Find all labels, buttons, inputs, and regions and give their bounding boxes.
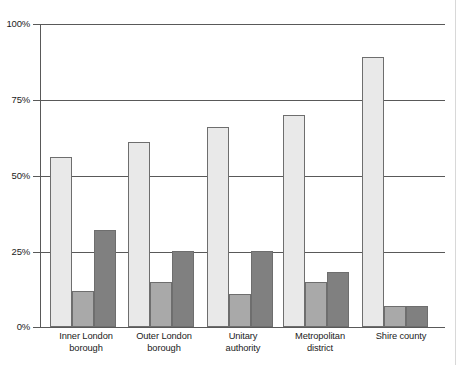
x-label-line1: Shire county <box>355 331 447 343</box>
bar-3-series-2 <box>229 294 251 327</box>
bar-3-series-1 <box>207 127 229 327</box>
x-label-metropolitan-district: Metropolitan district <box>274 331 366 354</box>
x-axis-baseline <box>40 327 445 328</box>
bar-4-series-3 <box>327 272 349 327</box>
x-label-line2: district <box>274 343 366 355</box>
bar-5-series-3 <box>406 306 428 327</box>
bar-group-container <box>0 0 467 327</box>
x-label-line2: borough <box>42 343 130 355</box>
bar-2-series-2 <box>150 282 172 327</box>
bar-2-series-1 <box>128 142 150 327</box>
x-label-line1: Outer London <box>120 331 208 343</box>
bars-layer <box>0 0 467 327</box>
x-label-line1: Inner London <box>42 331 130 343</box>
x-label-outer-london-borough: Outer London borough <box>120 331 208 354</box>
x-label-line1: Metropolitan <box>274 331 366 343</box>
bar-5-series-2 <box>384 306 406 327</box>
bar-1-series-2 <box>72 291 94 327</box>
bar-3-series-3 <box>251 251 273 327</box>
bar-chart: 100% 75% 50% 25% 0% Inner London borough… <box>0 0 467 365</box>
x-label-inner-london-borough: Inner London borough <box>42 331 130 354</box>
x-label-shire-county: Shire county <box>355 331 447 343</box>
bar-2-series-3 <box>172 251 194 327</box>
bar-1-series-3 <box>94 230 116 327</box>
bar-1-series-1 <box>50 157 72 327</box>
tick-mark-0 <box>33 327 40 328</box>
x-axis-labels: Inner London borough Outer London boroug… <box>0 331 467 365</box>
bar-4-series-2 <box>305 282 327 327</box>
bar-5-series-1 <box>362 57 384 327</box>
bar-4-series-1 <box>283 115 305 327</box>
x-label-line2: borough <box>120 343 208 355</box>
